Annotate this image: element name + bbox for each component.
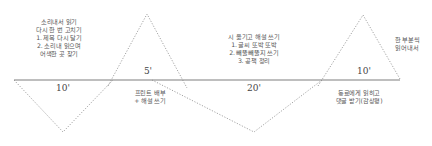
segment-3-note: 시 옮기고 해설 쓰기 1. 글씨 또박 또박 2. 빼뚤빼뚤지 쓰기 3. 공… — [220, 33, 288, 65]
note-line: 다시 한 번 고치기 — [27, 26, 91, 34]
note-line: 2. 소리내 읽으며 — [27, 42, 91, 50]
segment-4-duration: 10' — [349, 66, 379, 76]
note-line: 소리내서 읽기 — [27, 18, 91, 26]
segment-1-duration: 10' — [48, 83, 78, 93]
note-line: 1. 글씨 또박 또박 — [220, 41, 288, 49]
note-line: + 해설 쓰기 — [128, 97, 172, 105]
note-line: 댓글 받기(감상평) — [332, 97, 386, 105]
note-line: 프린트 배부 — [128, 89, 172, 97]
note-line: 어색한 곳 찾기 — [27, 50, 91, 58]
note-line: 한 부분씩 — [387, 36, 427, 44]
segment-2-note: 프린트 배부 + 해설 쓰기 — [128, 89, 172, 105]
note-line: 1. 제목 다시 달기 — [27, 34, 91, 42]
segment-4-note-right: 한 부분씩 읽어내서 — [387, 36, 427, 52]
note-line: 동료에게 읽히고 — [332, 89, 386, 97]
segment-3-duration: 20' — [237, 83, 271, 93]
note-line: 읽어내서 — [387, 44, 427, 52]
note-line: 2. 빼뚤빼뚤지 쓰기 — [220, 49, 288, 57]
note-line: 시 옮기고 해설 쓰기 — [220, 33, 288, 41]
segment-2-duration: 5' — [133, 66, 163, 76]
segment-1-note: 소리내서 읽기 다시 한 번 고치기 1. 제목 다시 달기 2. 소리내 읽으… — [27, 18, 91, 58]
note-line: 3. 공책 정리 — [220, 57, 288, 65]
segment-2-up-triangle — [108, 14, 187, 88]
segment-4-note-below: 동료에게 읽히고 댓글 받기(감상평) — [332, 89, 386, 105]
